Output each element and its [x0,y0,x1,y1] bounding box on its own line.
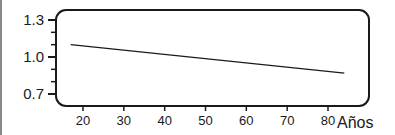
trend-line [71,45,345,73]
y-tick-label: 1.0 [23,48,44,65]
x-tick-label: 70 [280,113,294,128]
line-chart: 0.71.01.3 20304050607080 Años [0,0,395,135]
x-tick-label: 30 [117,113,131,128]
y-tick-label: 0.7 [23,85,44,102]
data-series [71,45,345,73]
x-tick-label: 80 [321,113,335,128]
plot-frame [56,10,369,106]
x-axis: 20304050607080 [76,106,335,128]
x-tick-label: 40 [157,113,171,128]
x-tick-label: 60 [239,113,253,128]
x-tick-label: 50 [198,113,212,128]
y-axis: 0.71.01.3 [23,11,57,102]
y-tick-label: 1.3 [23,11,44,28]
x-axis-label: Años [337,114,373,131]
x-tick-label: 20 [76,113,90,128]
